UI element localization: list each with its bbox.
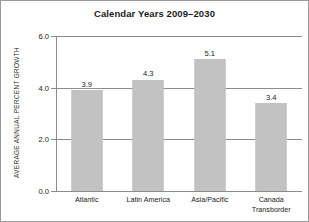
y-tick-label: 0.0 [17,187,49,196]
x-axis-label-line: Canada [241,195,303,205]
gridline-0 [56,191,302,192]
bar-slot: 3.9 [56,36,118,191]
bar[interactable] [71,90,102,191]
bar-slot: 4.3 [118,36,180,191]
x-axis-label: Atlantic [56,195,118,205]
chart-title: Calendar Years 2009–2030 [1,8,308,19]
bar[interactable] [256,103,287,191]
bar[interactable] [133,80,164,191]
x-axis-labels: AtlanticLatin AmericaAsia/PacificCanadaT… [56,195,302,221]
chart-figure: Calendar Years 2009–2030 AVERAGE ANNUAL … [0,0,309,222]
x-axis-label-line: Latin America [118,195,180,205]
y-tick-label: 6.0 [17,32,49,41]
y-tick-label: 4.0 [17,83,49,92]
bar[interactable] [194,59,225,191]
bar-value-label: 3.4 [266,93,277,102]
x-axis-label: Latin America [118,195,180,205]
x-axis-label: CanadaTransborder [241,195,303,214]
y-tick-label: 2.0 [17,135,49,144]
x-axis-label: Asia/Pacific [179,195,241,205]
y-axis-title: AVERAGE ANNUAL PERCENT GROWTH [13,23,20,203]
x-axis-label-line: Atlantic [56,195,118,205]
bar-value-label: 3.9 [81,80,92,89]
bar-series: 3.94.35.13.4 [56,36,302,191]
bar-slot: 3.4 [241,36,303,191]
bar-value-label: 5.1 [204,49,215,58]
x-axis-label-line: Asia/Pacific [179,195,241,205]
bar-value-label: 4.3 [143,69,154,78]
bar-slot: 5.1 [179,36,241,191]
plot-area: 3.94.35.13.4 [56,36,302,191]
x-axis-label-line: Transborder [241,205,303,215]
